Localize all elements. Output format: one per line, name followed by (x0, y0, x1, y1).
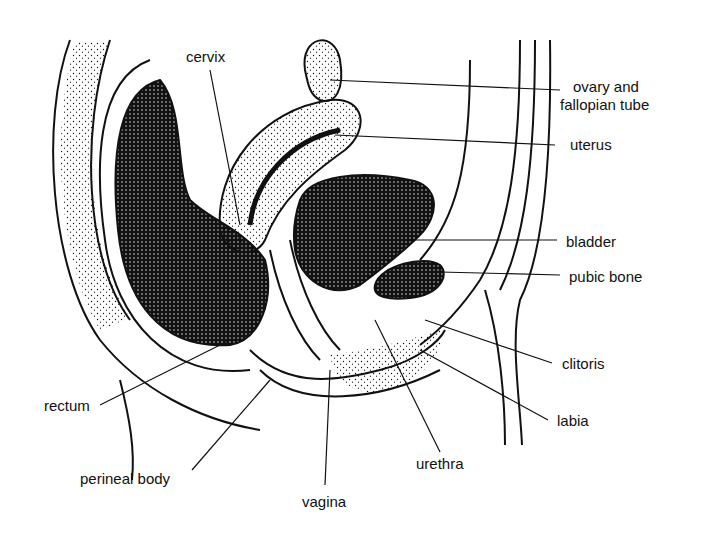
label-ovary-line1: ovary and (573, 78, 639, 96)
thigh-outline (485, 290, 505, 445)
label-urethra: urethra (416, 455, 464, 473)
label-uterus: uterus (570, 136, 612, 154)
label-pubic-bone: pubic bone (569, 268, 642, 286)
label-labia: labia (557, 412, 589, 430)
label-clitoris: clitoris (562, 355, 605, 373)
ovary-shape (305, 40, 342, 101)
label-ovary-line2: fallopian tube (560, 96, 649, 114)
label-perineal-body: perineal body (80, 470, 170, 488)
label-cervix: cervix (186, 48, 225, 66)
label-rectum: rectum (44, 397, 90, 415)
abdominal-wall (420, 40, 550, 445)
label-bladder: bladder (566, 233, 616, 251)
label-vagina: vagina (302, 493, 346, 511)
perineum-fill (330, 330, 441, 392)
